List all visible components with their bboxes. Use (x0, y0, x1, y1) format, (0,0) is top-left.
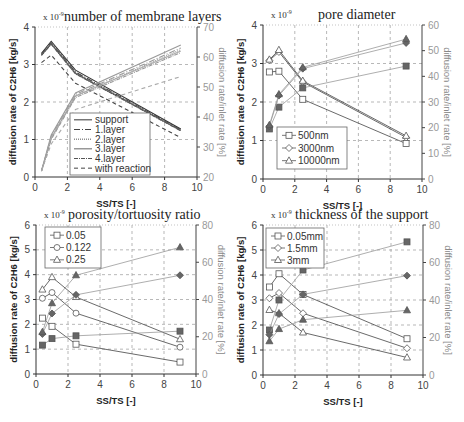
y-tick-label: 1 (251, 345, 257, 356)
x-tick-label: 10 (190, 379, 202, 390)
legend: 500nm3000nm10000nm (277, 127, 347, 169)
chart-title: thickness of the support (295, 207, 428, 222)
y-tick-label: 4 (251, 270, 257, 281)
data-point-marker (276, 297, 282, 303)
y2-tick-label: 40 (202, 294, 214, 305)
y2-tick-label: 40 (429, 295, 441, 306)
y2-tick-label: 30 (203, 142, 215, 153)
data-point-marker (49, 323, 55, 329)
data-point-marker (403, 35, 410, 41)
y2-tick-label: 20 (203, 172, 215, 183)
chart-layers: 024681001234203040506070diffusion rate o… (7, 9, 228, 209)
y2-tick-label: 50 (428, 45, 440, 56)
legend-label: 3mm (287, 255, 309, 266)
y2-axis-label: diffusion rate/inlet rate [%] (443, 245, 454, 355)
y-tick-label: 3 (24, 294, 30, 305)
x-tick-label: 2 (65, 379, 71, 390)
series-0-25 (39, 273, 184, 341)
legend-label: 0.05mm (287, 231, 323, 242)
legend-label: 0.122 (66, 242, 91, 253)
data-point-marker (73, 333, 79, 339)
chart-pore: 0246810012340102030405060diffusion rate … (235, 7, 453, 211)
x-axis-label: SS/TS [-] (323, 396, 363, 407)
y2-tick-label: 60 (428, 20, 440, 31)
x-tick-label: 10 (417, 380, 429, 391)
x-tick-label: 4 (97, 182, 103, 193)
y-axis-label: diffusion rate of C2H6 [kg/s] (235, 237, 246, 364)
data-point-marker (404, 336, 410, 342)
x-tick-label: 4 (324, 184, 330, 195)
y-tick-label: 2 (23, 97, 29, 108)
y-tick-label: 3 (251, 58, 257, 69)
y-tick-label: 4 (24, 269, 30, 280)
y-tick-label: 4 (251, 20, 257, 31)
legend: 0.05mm1.5mm3mm (266, 228, 324, 268)
x-tick-label: 10 (416, 184, 428, 195)
y-tick-label: 5 (251, 245, 257, 256)
x-tick-label: 4 (97, 379, 103, 390)
x-tick-label: 2 (65, 182, 71, 193)
x-tick-label: 6 (129, 379, 135, 390)
legend-marker (54, 245, 60, 251)
chart-title: number of membrane layers (64, 9, 221, 24)
x-tick-label: 6 (356, 184, 362, 195)
y-tick-label: 6 (24, 220, 30, 231)
x-tick-label: 0 (33, 379, 39, 390)
data-point-marker (266, 284, 272, 290)
y2-tick-label: 80 (429, 220, 441, 231)
y-tick-label: 4 (23, 22, 29, 33)
chart-porosity: 02468100123456020406080diffusion rate of… (8, 207, 227, 406)
data-point-marker (404, 307, 411, 313)
legend-label: 500nm (298, 130, 329, 141)
x-tick-label: 8 (161, 379, 167, 390)
data-point-marker (266, 306, 273, 312)
legend-label: with reaction (94, 163, 151, 174)
data-point-marker (300, 329, 307, 335)
data-point-marker (403, 63, 409, 69)
x-tick-label: 0 (260, 380, 266, 391)
data-point-marker (276, 104, 282, 110)
data-point-marker (73, 310, 79, 316)
x-tick-label: 0 (32, 182, 38, 193)
data-point-marker (177, 272, 184, 279)
legend-marker (286, 132, 292, 138)
scale-factor: x 10-9 (271, 9, 292, 20)
y-tick-label: 1 (24, 344, 30, 355)
y-tick-label: 0 (24, 369, 30, 380)
series-1-5mm- (266, 272, 411, 338)
x-tick-label: 6 (129, 182, 135, 193)
data-point-marker (403, 132, 410, 138)
y-axis-label: diffusion rate of C2H6 [kg/s] (8, 236, 19, 363)
data-point-marker (300, 85, 306, 91)
chart-title: porosity/tortuosity ratio (68, 207, 201, 222)
y-tick-label: 2 (251, 320, 257, 331)
data-point-marker (39, 295, 45, 301)
scale-factor: x 10-9 (43, 11, 64, 22)
y-tick-label: 3 (251, 295, 257, 306)
y2-axis-label: diffusion rate/inlet rate [%] (217, 47, 228, 157)
y2-tick-label: 10 (428, 148, 440, 159)
series-3mm (266, 306, 411, 360)
data-point-marker (49, 273, 56, 279)
y2-tick-label: 20 (202, 331, 214, 342)
y2-tick-label: 60 (429, 257, 441, 268)
y-tick-label: 2 (251, 97, 257, 108)
y2-tick-label: 0 (428, 174, 434, 185)
data-point-marker (39, 315, 45, 321)
y-axis-label: diffusion rate of C2H6 [kg/s] (235, 39, 246, 166)
legend-marker (275, 233, 281, 239)
figure-4-panel-chart: 024681001234203040506070diffusion rate o… (0, 0, 464, 422)
data-point-marker (404, 345, 411, 352)
y2-tick-label: 40 (428, 71, 440, 82)
data-point-marker (404, 272, 411, 279)
x-tick-label: 4 (324, 380, 330, 391)
series-0-05 (39, 315, 183, 365)
legend-label: 3000nm (298, 143, 334, 154)
legend-label: 0.25 (66, 254, 86, 265)
x-tick-label: 2 (292, 184, 298, 195)
chart-thickness: 02468100123456020406080diffusion rate of… (235, 207, 454, 407)
data-point-marker (266, 69, 272, 75)
y2-axis-label: diffusion rate/inlet rate [%] (442, 47, 453, 157)
y-tick-label: 1 (251, 135, 257, 146)
x-tick-label: 0 (260, 184, 266, 195)
